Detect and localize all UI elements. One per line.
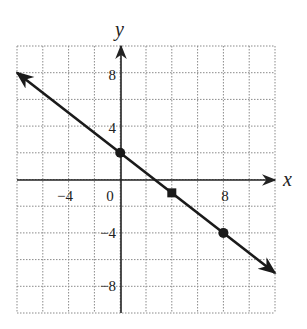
y-tick-label: 4 [109, 120, 117, 136]
x-tick-label: 8 [221, 188, 229, 204]
x-axis-label: x [282, 168, 292, 190]
data-point [115, 148, 125, 158]
y-tick-label: 8 [109, 67, 117, 83]
x-tick-label: −4 [57, 188, 73, 204]
data-point [218, 228, 228, 238]
data-line [17, 73, 275, 273]
y-tick-label: −4 [100, 225, 116, 241]
x-tick-label: 0 [106, 188, 114, 204]
y-axis-label: y [113, 18, 124, 41]
coordinate-plane: x y −4 0 8 8 4 −4 −8 [0, 0, 307, 329]
y-tick-label: −8 [100, 278, 116, 294]
data-point [167, 188, 176, 197]
line-series [17, 73, 275, 273]
